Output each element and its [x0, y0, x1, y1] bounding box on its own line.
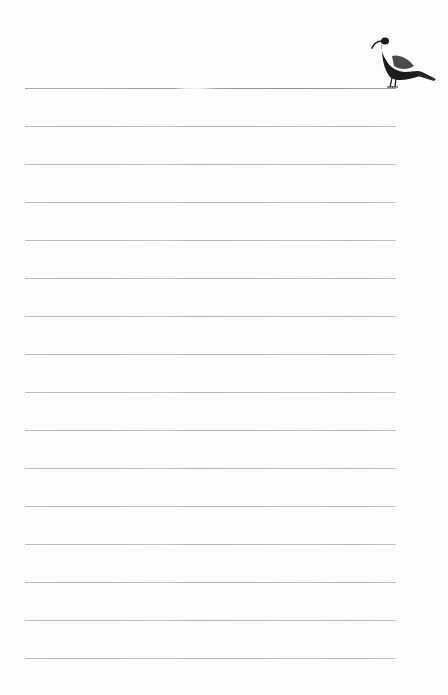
- ruled-line: [25, 316, 396, 317]
- ruled-line: [25, 658, 396, 659]
- ruled-line: [25, 126, 396, 127]
- bird-icon: [368, 34, 438, 90]
- ruled-line: [25, 468, 396, 469]
- notepaper-page: [0, 0, 448, 695]
- ruled-line: [25, 506, 396, 507]
- ruled-line: [25, 88, 396, 89]
- ruled-line: [25, 392, 396, 393]
- ruled-line: [25, 202, 396, 203]
- ruled-line: [25, 582, 396, 583]
- ruled-line: [25, 544, 396, 545]
- ruled-line: [25, 354, 396, 355]
- ruled-line: [25, 164, 396, 165]
- ruled-line: [25, 430, 396, 431]
- ruled-line: [25, 620, 396, 621]
- ruled-line: [25, 240, 396, 241]
- ruled-line: [25, 278, 396, 279]
